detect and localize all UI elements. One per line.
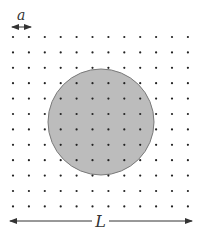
lattice-point (44, 144, 46, 146)
lattice-point (60, 190, 62, 192)
lattice-point (187, 159, 189, 161)
lattice-point (28, 205, 30, 207)
lattice-point (12, 51, 14, 53)
lattice-point (187, 67, 189, 69)
lattice-point (28, 113, 30, 115)
lattice-point (44, 98, 46, 100)
sampling-circle (48, 69, 154, 175)
lattice-point (171, 159, 173, 161)
length-indicator: L (10, 212, 192, 231)
length-label: L (94, 212, 106, 231)
lattice-point (155, 175, 157, 177)
lattice-point (187, 175, 189, 177)
lattice-point (187, 36, 189, 38)
lattice-point (123, 190, 125, 192)
lattice-point (187, 51, 189, 53)
lattice-point (28, 128, 30, 130)
lattice-point (12, 144, 14, 146)
lattice-point (155, 51, 157, 53)
lattice-point (44, 51, 46, 53)
lattice-point (76, 175, 78, 177)
lattice-point (171, 67, 173, 69)
lattice-point (107, 51, 109, 53)
lattice-point (76, 128, 78, 130)
lattice-point (28, 159, 30, 161)
lattice-point (60, 175, 62, 177)
lattice-point (12, 67, 14, 69)
lattice-point (187, 205, 189, 207)
lattice-point (91, 36, 93, 38)
lattice-point (60, 51, 62, 53)
lattice-point (44, 113, 46, 115)
lattice-point (76, 98, 78, 100)
lattice-point (187, 128, 189, 130)
spacing-label: a (17, 7, 25, 23)
lattice-point (139, 144, 141, 146)
lattice-point (123, 175, 125, 177)
lattice-point (44, 159, 46, 161)
lattice-point (12, 159, 14, 161)
lattice-diagram: a L (0, 0, 201, 241)
lattice-point (123, 51, 125, 53)
lattice-point (107, 190, 109, 192)
lattice-point (91, 190, 93, 192)
lattice-point (28, 36, 30, 38)
lattice-point (171, 144, 173, 146)
lattice-point (107, 159, 109, 161)
lattice-point (44, 190, 46, 192)
lattice-point (155, 190, 157, 192)
lattice-point (76, 190, 78, 192)
lattice-point (139, 67, 141, 69)
lattice-point (139, 113, 141, 115)
lattice-point (123, 36, 125, 38)
lattice-point (187, 113, 189, 115)
lattice-point (155, 144, 157, 146)
lattice-point (155, 205, 157, 207)
lattice-point (60, 113, 62, 115)
lattice-point (28, 175, 30, 177)
lattice-point (60, 67, 62, 69)
lattice-point (60, 98, 62, 100)
lattice-point (107, 113, 109, 115)
lattice-point (155, 36, 157, 38)
lattice-point (107, 175, 109, 177)
lattice-point (171, 175, 173, 177)
lattice-point (187, 190, 189, 192)
lattice-point (139, 190, 141, 192)
lattice-point (91, 113, 93, 115)
lattice-point (123, 128, 125, 130)
lattice-point (44, 82, 46, 84)
lattice-point (91, 67, 93, 69)
lattice-point (155, 159, 157, 161)
lattice-point (139, 175, 141, 177)
lattice-point (60, 144, 62, 146)
lattice-point (139, 51, 141, 53)
lattice-point (28, 144, 30, 146)
lattice-point (91, 128, 93, 130)
lattice-point (123, 159, 125, 161)
lattice-point (44, 36, 46, 38)
lattice-point (44, 67, 46, 69)
lattice-point (171, 36, 173, 38)
lattice-point (76, 113, 78, 115)
lattice-point (28, 98, 30, 100)
lattice-point (91, 175, 93, 177)
lattice-point (76, 67, 78, 69)
lattice-point (76, 36, 78, 38)
lattice-point (91, 205, 93, 207)
spacing-indicator: a (12, 7, 31, 27)
lattice-point (76, 159, 78, 161)
lattice-point (139, 36, 141, 38)
lattice-point (12, 98, 14, 100)
lattice-point (60, 36, 62, 38)
lattice-point (171, 113, 173, 115)
lattice-point (76, 144, 78, 146)
lattice-point (171, 51, 173, 53)
lattice-point (139, 159, 141, 161)
lattice-point (171, 190, 173, 192)
lattice-point (60, 128, 62, 130)
lattice-point (139, 205, 141, 207)
lattice-point (171, 82, 173, 84)
lattice-point (107, 36, 109, 38)
lattice-point (44, 205, 46, 207)
